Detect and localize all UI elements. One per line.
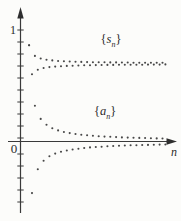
data-point [159, 144, 161, 146]
data-point [34, 55, 36, 57]
data-point [63, 131, 65, 133]
data-point [109, 61, 111, 63]
figure-canvas: 1 0 n {sn} {an} [0, 0, 181, 221]
data-point [89, 146, 91, 148]
y-axis-label-1: 1 [4, 24, 16, 36]
brace-close: } [115, 32, 121, 46]
data-point [43, 67, 45, 69]
data-point [98, 61, 100, 63]
data-point [106, 145, 108, 147]
data-point [101, 146, 103, 148]
data-point [60, 151, 62, 153]
data-point [118, 64, 120, 66]
data-point [144, 137, 146, 139]
data-point [83, 147, 85, 149]
data-point [150, 62, 152, 64]
data-point [80, 134, 82, 136]
data-point [86, 134, 88, 136]
arrow-up-icon [17, 7, 23, 19]
data-point [127, 61, 129, 63]
data-point [121, 61, 123, 63]
data-point [95, 146, 97, 148]
data-point [150, 137, 152, 139]
data-point [57, 60, 59, 62]
data-point [89, 64, 91, 66]
sn-data-points [28, 44, 166, 75]
data-point [164, 63, 166, 65]
data-point [115, 136, 117, 138]
data-point [48, 155, 50, 157]
data-point [51, 59, 53, 61]
data-point [63, 60, 65, 62]
brace-close: } [110, 104, 116, 118]
data-point [74, 61, 76, 63]
origin-label: 0 [8, 142, 20, 155]
data-point [77, 148, 79, 150]
data-point [40, 57, 42, 59]
data-point [159, 64, 161, 66]
data-point [28, 44, 30, 46]
data-point [86, 61, 88, 63]
data-point [153, 144, 155, 146]
data-point [141, 64, 143, 66]
data-point [54, 66, 56, 68]
data-point [72, 148, 74, 150]
data-point [118, 145, 120, 147]
data-point [124, 144, 126, 146]
data-point [132, 62, 134, 64]
data-point [54, 153, 56, 155]
data-point [57, 129, 59, 131]
data-point [31, 73, 33, 75]
data-point [161, 62, 163, 64]
data-point [74, 133, 76, 135]
data-point [103, 61, 105, 63]
data-point [31, 192, 33, 194]
data-point [115, 61, 117, 63]
data-point [98, 135, 100, 137]
data-point [156, 62, 158, 64]
series-label-an: {an} [88, 105, 122, 118]
data-point [124, 64, 126, 66]
data-point [121, 136, 123, 138]
data-point [66, 65, 68, 67]
data-point [48, 66, 50, 68]
data-point [153, 64, 155, 66]
data-point [92, 135, 94, 137]
data-point [37, 69, 39, 71]
data-point [60, 65, 62, 67]
data-point [51, 127, 53, 129]
arrow-right-icon [167, 138, 178, 145]
data-point [130, 64, 132, 66]
data-point [40, 118, 42, 120]
data-point [156, 137, 158, 139]
data-point [43, 160, 45, 162]
data-point [45, 124, 47, 126]
series-label-sn: {sn} [94, 33, 128, 46]
data-point [106, 64, 108, 66]
data-point [138, 137, 140, 139]
data-point [37, 168, 39, 170]
data-point [161, 137, 163, 139]
data-point [95, 64, 97, 66]
data-point [132, 137, 134, 139]
data-point [34, 105, 36, 107]
data-point [72, 65, 74, 67]
data-point [101, 64, 103, 66]
data-point [83, 64, 85, 66]
data-point [77, 64, 79, 66]
data-point [92, 61, 94, 63]
data-point [138, 62, 140, 64]
data-point [147, 144, 149, 146]
data-point [130, 144, 132, 146]
data-point [112, 145, 114, 147]
data-point [66, 149, 68, 151]
data-point [127, 137, 129, 139]
data-point [141, 144, 143, 146]
data-point [45, 59, 47, 61]
x-axis-label-n: n [167, 146, 181, 158]
data-point [103, 136, 105, 138]
data-point [135, 144, 137, 146]
data-point [109, 136, 111, 138]
data-point [69, 60, 71, 62]
data-point [135, 64, 137, 66]
